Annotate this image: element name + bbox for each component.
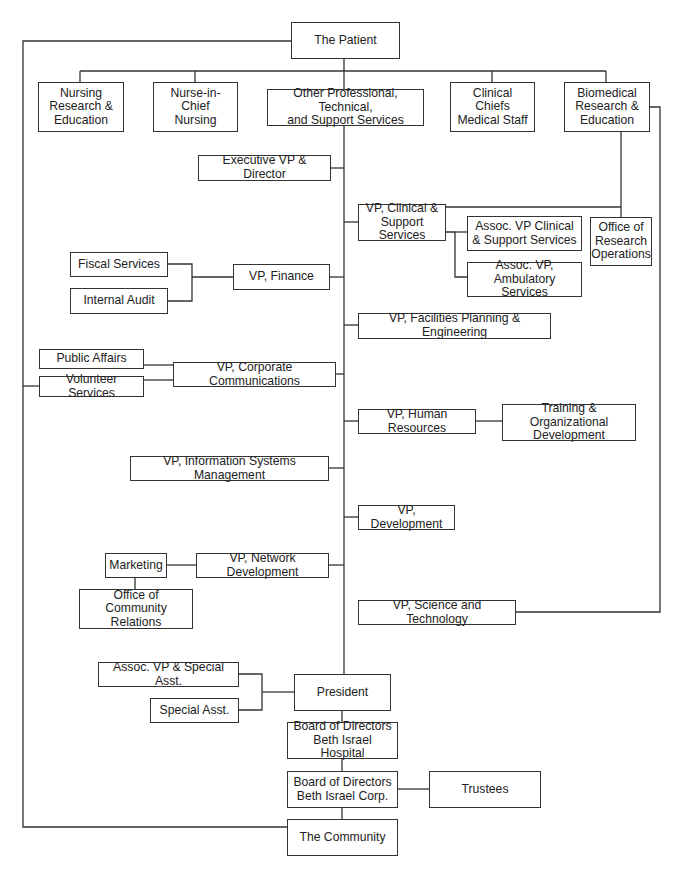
- node-vp-corporate-communications: VP, Corporate Communications: [173, 362, 336, 387]
- node-other-professional-services: Other Professional, Technical, and Suppo…: [267, 89, 424, 126]
- node-board-beth-israel-hospital: Board of Directors Beth Israel Hospital: [287, 722, 398, 759]
- node-nurse-in-chief: Nurse-in-Chief Nursing: [153, 82, 238, 132]
- node-vp-network-development: VP, Network Development: [196, 553, 329, 578]
- node-vp-development: VP, Development: [358, 505, 455, 530]
- node-nursing-research-education: Nursing Research & Education: [38, 82, 124, 132]
- node-executive-vp-director: Executive VP & Director: [198, 155, 331, 181]
- node-marketing: Marketing: [105, 553, 167, 578]
- node-assoc-vp-ambulatory: Assoc. VP, Ambulatory Services: [467, 262, 582, 297]
- node-the-patient: The Patient: [291, 22, 400, 59]
- node-trustees: Trustees: [429, 771, 541, 808]
- node-vp-clinical-support: VP, Clinical & Support Services: [358, 204, 446, 241]
- node-biomedical-research-education: Biomedical Research & Education: [564, 82, 650, 132]
- node-training-organizational-development: Training & Organizational Development: [502, 404, 636, 441]
- node-president: President: [294, 674, 391, 711]
- node-vp-facilities: VP, Facilities Planning & Engineering: [358, 313, 551, 339]
- node-office-community-relations: Office of Community Relations: [79, 589, 193, 629]
- node-fiscal-services: Fiscal Services: [70, 252, 168, 277]
- node-the-community: The Community: [287, 819, 398, 856]
- node-clinical-chiefs: Clinical Chiefs Medical Staff: [450, 82, 535, 132]
- node-volunteer-services: Volunteer Services: [39, 376, 144, 397]
- node-assoc-vp-clinical-support: Assoc. VP Clinical & Support Services: [467, 216, 582, 251]
- node-board-beth-israel-corp: Board of Directors Beth Israel Corp.: [287, 771, 398, 808]
- node-public-affairs: Public Affairs: [39, 349, 144, 369]
- node-vp-science-technology: VP, Science and Technology: [358, 600, 516, 625]
- node-office-research-operations: Office of Research Operations: [590, 217, 652, 266]
- node-vp-human-resources: VP, Human Resources: [358, 409, 476, 434]
- node-assoc-vp-special-asst: Assoc. VP & Special Asst.: [98, 662, 239, 687]
- node-internal-audit: Internal Audit: [70, 288, 168, 314]
- node-vp-information-systems: VP, Information Systems Management: [130, 456, 329, 481]
- node-special-asst: Special Asst.: [150, 698, 239, 723]
- node-vp-finance: VP, Finance: [233, 264, 330, 290]
